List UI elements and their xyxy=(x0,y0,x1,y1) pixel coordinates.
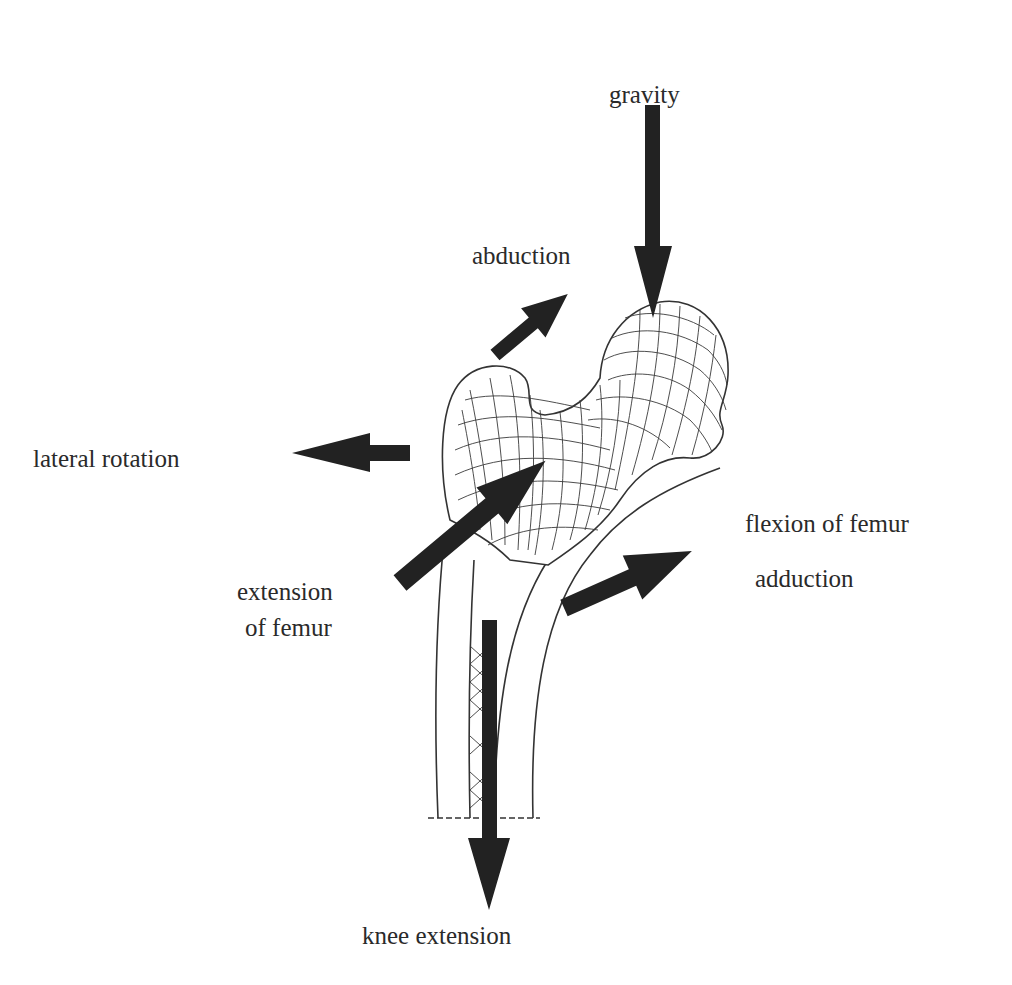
label-lateral-rotation: lateral rotation xyxy=(33,445,180,472)
label-extension: extension xyxy=(237,578,333,605)
femur-force-diagram: gravity abduction lateral rotation flexi… xyxy=(0,0,1012,985)
gravity-arrow xyxy=(634,105,672,318)
label-flexion-of-femur: flexion of femur xyxy=(745,510,910,537)
label-gravity: gravity xyxy=(609,81,680,108)
label-knee-extension: knee extension xyxy=(362,922,512,949)
femur-head xyxy=(442,301,728,565)
lateral-rotation-arrow xyxy=(292,433,410,472)
label-adduction: adduction xyxy=(755,565,854,592)
knee-extension-arrow xyxy=(468,620,510,910)
abduction-arrow xyxy=(483,279,580,369)
label-abduction: abduction xyxy=(472,242,571,269)
label-of-femur: of femur xyxy=(245,614,332,641)
